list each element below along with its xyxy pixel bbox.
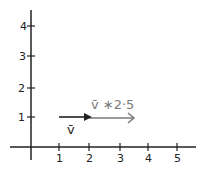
axes-svg <box>0 0 205 172</box>
y-tick-label-1: 1 <box>18 112 25 123</box>
x-tick-label-3: 3 <box>117 153 124 164</box>
x-tick-label-5: 5 <box>174 153 181 164</box>
x-tick-label-1: 1 <box>56 153 63 164</box>
vector-v-label: v̄ <box>67 123 75 136</box>
vector-diagram: 4 3 2 1 1 2 3 4 5 v̄ ∗2·5 v̄ <box>0 0 205 172</box>
vector-v-arrow <box>59 113 92 121</box>
y-tick-label-2: 2 <box>18 83 25 94</box>
scaled-vector-label: v̄ ∗2·5 <box>91 98 134 111</box>
y-tick-label-4: 4 <box>20 21 27 32</box>
scaled-vector-arrow <box>89 113 134 123</box>
x-tick-label-2: 2 <box>86 153 93 164</box>
y-tick-label-3: 3 <box>19 51 26 62</box>
x-tick-label-4: 4 <box>145 153 152 164</box>
